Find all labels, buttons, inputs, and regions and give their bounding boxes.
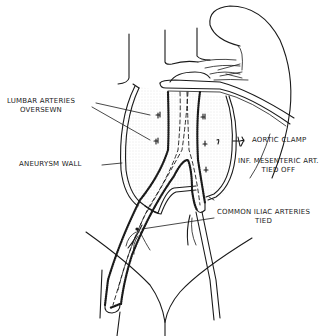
label-lumbar-arteries: LUMBAR ARTERIES OVERSEWN [7, 97, 75, 114]
label-aortic-clamp: AORTIC CLAMP [252, 136, 306, 145]
label-iliac-line2: TIED [217, 217, 310, 226]
label-ima-line2: TIED OFF [238, 166, 319, 175]
inf-mesenteric-tie [233, 137, 244, 146]
label-clamp-line1: AORTIC CLAMP [252, 136, 306, 145]
vena-cava [118, 34, 129, 84]
label-inf-mesenteric: INF. MESENTERIC ART. TIED OFF [238, 157, 319, 174]
iliac-vessels [126, 212, 220, 320]
label-common-iliac: COMMON ILIAC ARTERIES TIED [217, 208, 310, 225]
label-aneurysm-wall: ANEURYSM WALL [19, 160, 82, 169]
label-lumbar-line1: LUMBAR ARTERIES [7, 97, 75, 106]
label-aneurysm-line1: ANEURYSM WALL [19, 160, 82, 169]
label-lumbar-line2: OVERSEWN [7, 106, 75, 115]
label-ima-line1: INF. MESENTERIC ART. [238, 157, 319, 166]
label-iliac-line1: COMMON ILIAC ARTERIES [217, 208, 310, 217]
pelvic-outline [86, 232, 252, 336]
illustration-canvas: LUMBAR ARTERIES OVERSEWN ANEURYSM WALL A… [0, 0, 333, 336]
aorta-proximal [165, 28, 210, 82]
